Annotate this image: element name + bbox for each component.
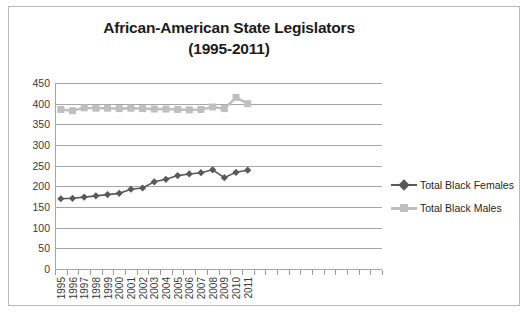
x-axis-label: 1997: [79, 277, 90, 299]
x-axis-label: 2005: [173, 277, 184, 299]
x-axis-tick: [312, 270, 313, 275]
x-axis-tick: [382, 270, 383, 275]
x-axis-tick: [242, 270, 243, 275]
legend-item[interactable]: Total Black Females: [391, 175, 529, 194]
chart-title: African-American State Legislators (1995…: [9, 17, 449, 59]
data-point-marker: [197, 106, 204, 113]
x-axis-tick: [359, 270, 360, 275]
x-axis-label: 2000: [114, 277, 125, 299]
data-point-marker: [197, 169, 204, 176]
data-point-marker: [151, 178, 158, 185]
x-axis-tick: [78, 270, 79, 275]
data-point-marker: [139, 184, 146, 191]
data-point-marker: [92, 192, 99, 199]
data-point-marker: [151, 106, 158, 113]
x-axis-tick: [55, 270, 56, 275]
data-point-marker: [186, 170, 193, 177]
y-axis-tick-label: 350: [32, 118, 50, 130]
y-axis-tick-label: 100: [32, 222, 50, 234]
x-axis-tick: [207, 270, 208, 275]
data-point-marker: [104, 105, 111, 112]
x-axis-label: 1999: [103, 277, 114, 299]
x-axis-label: 2007: [196, 277, 207, 299]
x-axis-tick: [219, 270, 220, 275]
x-axis-label: 1995: [56, 277, 67, 299]
chart-legend: Total Black FemalesTotal Black Males: [391, 175, 529, 221]
x-axis-tick: [195, 270, 196, 275]
x-axis-label: 2011: [243, 277, 254, 299]
legend-label: Total Black Males: [420, 202, 502, 214]
data-point-marker: [221, 105, 228, 112]
x-axis-tick: [324, 270, 325, 275]
x-axis-tick: [347, 270, 348, 275]
y-axis-tick-label: 200: [32, 180, 50, 192]
data-point-marker: [174, 106, 181, 113]
x-axis-tick: [102, 270, 103, 275]
x-axis-tick: [300, 270, 301, 275]
data-point-marker: [244, 167, 251, 174]
x-axis-tick: [265, 270, 266, 275]
plot-area: 050100150200250300350400450: [55, 83, 382, 269]
y-axis-tick-label: 0: [44, 263, 50, 275]
y-axis-tick-label: 150: [32, 201, 50, 213]
data-point-marker: [92, 105, 99, 112]
x-axis-tick: [137, 270, 138, 275]
x-axis-tick: [90, 270, 91, 275]
chart-screenshot: African-American State Legislators (1995…: [0, 0, 529, 321]
data-point-marker: [186, 106, 193, 113]
data-point-marker: [127, 186, 134, 193]
x-axis-label: 2010: [231, 277, 242, 299]
x-axis-label: 1996: [68, 277, 79, 299]
data-point-marker: [162, 106, 169, 113]
y-axis-tick-label: 250: [32, 160, 50, 172]
y-axis-tick-label: 300: [32, 139, 50, 151]
x-axis-tick: [172, 270, 173, 275]
x-axis-tick: [183, 270, 184, 275]
x-axis-tick: [67, 270, 68, 275]
series-plot: [55, 83, 382, 269]
x-axis-tick: [370, 270, 371, 275]
x-axis-label: 2004: [161, 277, 172, 299]
diamond-marker-icon: [391, 179, 417, 191]
x-axis-tick: [277, 270, 278, 275]
data-point-marker: [174, 172, 181, 179]
x-axis-label: 2003: [149, 277, 160, 299]
x-axis-tick: [160, 270, 161, 275]
y-axis-tick-label: 450: [32, 77, 50, 89]
data-point-marker: [81, 193, 88, 200]
data-point-marker: [116, 190, 123, 197]
x-axis-tick: [289, 270, 290, 275]
data-point-marker: [69, 107, 76, 114]
x-axis-tick: [230, 270, 231, 275]
data-point-marker: [233, 94, 240, 101]
data-point-marker: [57, 195, 64, 202]
y-axis-tick-label: 400: [32, 98, 50, 110]
x-axis-label: 2008: [208, 277, 219, 299]
data-point-marker: [127, 105, 134, 112]
chart-title-line2: (1995-2011): [9, 38, 449, 59]
x-axis-tick: [125, 270, 126, 275]
x-axis-label: 2009: [219, 277, 230, 299]
x-axis-tick: [335, 270, 336, 275]
x-axis-label: 1998: [91, 277, 102, 299]
x-axis-label: 2002: [138, 277, 149, 299]
square-marker-icon: [391, 202, 417, 214]
data-point-marker: [69, 195, 76, 202]
chart-frame: African-American State Legislators (1995…: [8, 6, 520, 306]
x-axis-tick: [113, 270, 114, 275]
data-point-marker: [139, 105, 146, 112]
data-point-marker: [81, 104, 88, 111]
x-axis-tick: [148, 270, 149, 275]
x-axis-label: 2006: [184, 277, 195, 299]
data-point-marker: [104, 191, 111, 198]
data-point-marker: [162, 176, 169, 183]
data-point-marker: [116, 105, 123, 112]
x-axis-tick: [254, 270, 255, 275]
data-point-marker: [57, 106, 64, 113]
y-axis-tick-label: 50: [38, 242, 50, 254]
x-axis-label: 2001: [126, 277, 137, 299]
data-point-marker: [209, 103, 216, 110]
legend-item[interactable]: Total Black Males: [391, 198, 529, 217]
data-point-marker: [232, 169, 239, 176]
data-point-marker: [244, 100, 251, 107]
